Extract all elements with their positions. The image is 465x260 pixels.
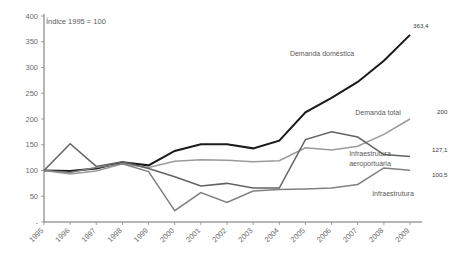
data-series-group (44, 35, 410, 211)
index-note: Índice 1995 = 100 (46, 17, 106, 26)
annotation-infraestrutura-aeroportuaria-line1: Infraestrutura (349, 150, 391, 157)
x-tick-label: 2002 (210, 226, 228, 244)
x-tick-label: 1996 (53, 226, 71, 244)
value-label-127-1: 127,1 (432, 146, 448, 153)
y-tick-label: 200 (25, 115, 38, 124)
x-tick-label: 1995 (27, 226, 45, 244)
series-annotations: Demanda domésticaDemanda totalInfraestru… (290, 50, 414, 197)
annotation-demanda-total: Demanda total (355, 109, 401, 116)
x-tick-label: 1997 (80, 226, 98, 244)
x-tick-label: 2004 (263, 226, 281, 244)
chart-container: -50100150200250300350400 199519961997199… (0, 0, 465, 260)
y-tick-label: 350 (25, 37, 38, 46)
annotation-infraestrutura: Infraestrutura (372, 190, 414, 197)
x-tick-label: 1999 (132, 226, 150, 244)
y-tick-label: 150 (25, 140, 38, 149)
y-tick-label: 50 (30, 192, 38, 201)
x-tick-label: 2007 (341, 226, 359, 244)
annotation-infraestrutura-aeroportuaria-line2: aeroportuária (349, 160, 391, 168)
value-label-363-4: 363,4 (413, 22, 429, 29)
y-tick-label: 100 (25, 166, 38, 175)
x-tick-label: 2008 (367, 226, 385, 244)
x-tick-label: 2000 (158, 226, 176, 244)
x-axis: 1995199619971998199920002001200220032004… (27, 222, 422, 244)
y-axis: -50100150200250300350400 (25, 12, 44, 227)
x-tick-label: 2001 (184, 226, 202, 244)
x-tick-label: 2006 (315, 226, 333, 244)
y-tick-label: - (36, 218, 39, 227)
value-label-200: 200 (437, 108, 448, 115)
x-tick-label: 2005 (289, 226, 307, 244)
y-tick-label: 400 (25, 12, 38, 21)
annotation-demanda-domestica: Demanda doméstica (290, 50, 354, 57)
y-tick-label: 300 (25, 63, 38, 72)
value-label-100-5: 100,5 (432, 171, 448, 178)
x-tick-label: 1998 (106, 226, 124, 244)
x-tick-label: 2003 (236, 226, 254, 244)
y-tick-label: 250 (25, 89, 38, 98)
line-chart: -50100150200250300350400 199519961997199… (0, 0, 465, 260)
x-tick-label: 2009 (393, 226, 411, 244)
value-labels: 363,4200127,1100,5 (413, 22, 448, 178)
